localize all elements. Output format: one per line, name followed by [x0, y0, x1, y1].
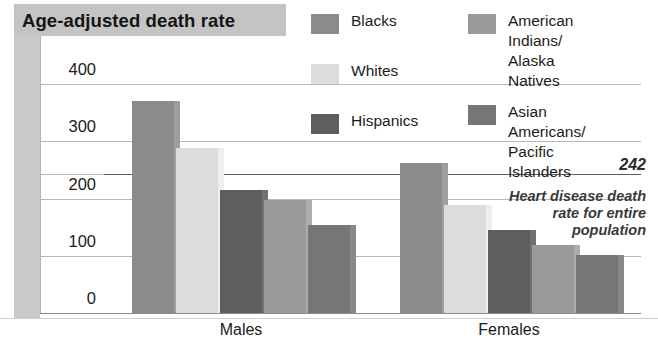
y-tick-100: 100 [40, 232, 96, 250]
reference-value-label: 242 [619, 156, 646, 174]
gridline-0 [40, 313, 641, 314]
y-tick-200: 200 [40, 175, 96, 193]
legend-label: Asian Americans/ Pacific Islanders [508, 102, 586, 182]
legend-label: Whites [351, 61, 398, 81]
bar-face [576, 255, 618, 313]
page-title: Age-adjusted death rate [22, 9, 288, 33]
bar-males-0 [132, 101, 174, 313]
bar-face [400, 163, 442, 313]
bar-face [176, 148, 218, 313]
left-gray-band [14, 4, 40, 319]
bar-side-3d [350, 225, 356, 313]
bar-males-1 [176, 148, 218, 313]
bar-face [264, 200, 306, 313]
group-label-males: Males [132, 320, 350, 340]
bar-females-0 [400, 163, 442, 313]
bar-face [532, 245, 574, 313]
legend-swatch-icon [311, 14, 339, 34]
y-tick-400: 400 [40, 60, 96, 78]
bar-face [132, 101, 174, 313]
legend-swatch-icon [311, 114, 339, 134]
legend-swatch-icon [311, 64, 339, 84]
bar-females-4 [576, 255, 618, 313]
reference-line-left-stub [40, 174, 104, 175]
bar-females-2 [488, 230, 530, 313]
annotation-line-1: Heart disease death [446, 188, 646, 205]
bar-males-4 [308, 225, 350, 313]
legend-label: Hispanics [351, 111, 418, 131]
bar-females-3 [532, 245, 574, 313]
legend-label: Blacks [351, 11, 397, 31]
legend-swatch-icon [468, 105, 496, 125]
legend-swatch-icon [468, 14, 496, 34]
annotation-line-2: rate for entire [446, 205, 646, 222]
reference-annotation-text: Heart disease death rate for entire popu… [446, 188, 646, 239]
annotation-line-3: population [446, 222, 646, 239]
group-label-females: Females [400, 320, 618, 340]
bar-face [488, 230, 530, 313]
legend: BlacksWhitesHispanicsAmerican Indians/ A… [311, 6, 658, 146]
legend-label: American Indians/ Alaska Natives [508, 11, 573, 91]
y-tick-0: 0 [40, 289, 96, 307]
bar-males-2 [220, 190, 262, 313]
bar-side-3d [618, 255, 624, 313]
chart-page: Age-adjusted death rate 0100200300400 Ma… [0, 0, 658, 353]
bar-face [308, 225, 350, 313]
bottom-divider [0, 318, 658, 319]
bar-males-3 [264, 200, 306, 313]
bar-face [220, 190, 262, 313]
y-tick-300: 300 [40, 117, 96, 135]
